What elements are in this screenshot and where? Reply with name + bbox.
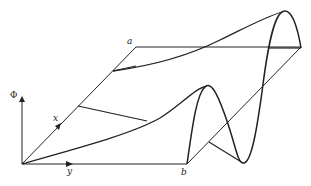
diagram-canvas: Φ x y a b <box>0 0 311 186</box>
y-axis-label: y <box>67 166 72 176</box>
x-axis-label: x <box>53 113 58 123</box>
surface-curve-lower <box>22 86 207 164</box>
surface-diagram <box>0 0 311 186</box>
x-axis-edge <box>22 47 136 164</box>
corner-b-label: b <box>181 167 187 177</box>
phi-axis-label: Φ <box>10 90 17 100</box>
lower-right-cross-line <box>209 142 243 163</box>
surface-curve-upper <box>113 12 282 71</box>
corner-a-label: a <box>127 36 132 46</box>
mid-cross-line <box>78 106 147 121</box>
right-edge <box>187 47 301 164</box>
wave-curve-front <box>187 11 301 164</box>
